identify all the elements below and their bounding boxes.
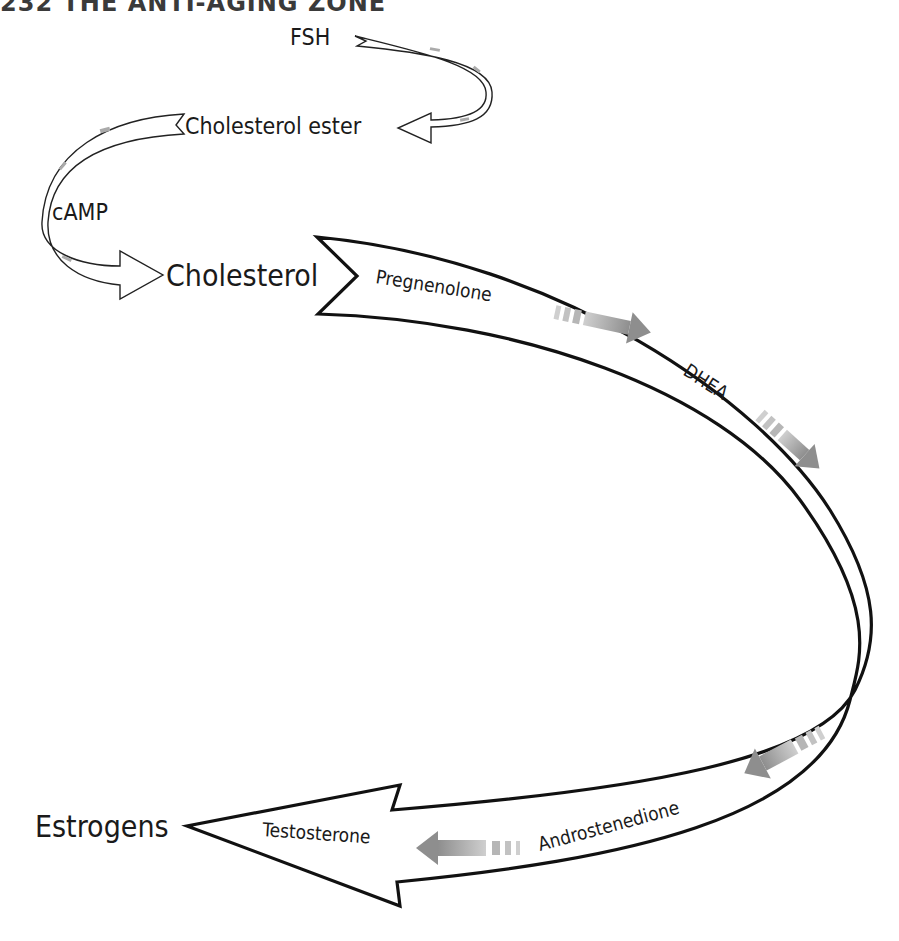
label-cholesterol: Cholesterol: [166, 258, 318, 293]
main-synthesis-arrow: [187, 237, 871, 906]
label-estrogens: Estrogens: [35, 809, 169, 844]
hormone-pathway-diagram: FSH Cholesterol ester cAMP Cholesterol P…: [0, 0, 899, 941]
label-cholesterol-ester: Cholesterol ester: [185, 113, 362, 139]
label-fsh: FSH: [290, 24, 330, 50]
label-camp: cAMP: [52, 199, 108, 225]
fsh-to-cholesterol-ester-arrow: [355, 36, 492, 143]
